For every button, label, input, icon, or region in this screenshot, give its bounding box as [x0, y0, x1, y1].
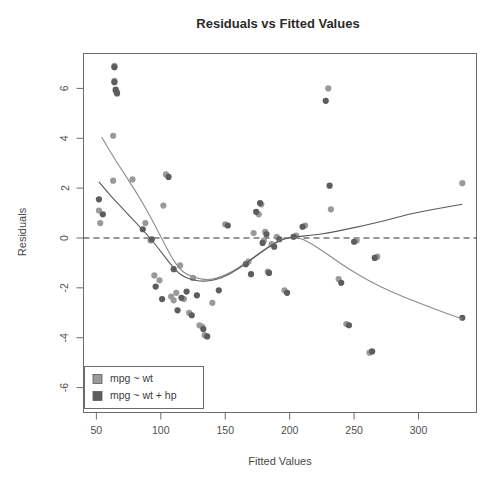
- data-point: [327, 183, 333, 189]
- data-point: [142, 220, 148, 226]
- y-axis-label: Residuals: [16, 207, 28, 256]
- x-tick-label: 150: [216, 424, 234, 436]
- smoother-curves-layer: [99, 137, 462, 319]
- x-axis-label: Fitted Values: [248, 455, 312, 467]
- x-tick-label: 200: [281, 424, 299, 436]
- data-point: [110, 133, 116, 139]
- data-point: [194, 292, 200, 298]
- data-point: [346, 322, 352, 328]
- x-tick-label: 250: [345, 424, 363, 436]
- residual-plot-figure: Residuals vs Fitted Values 5010015020025…: [0, 0, 503, 489]
- y-axis-ticks: 6420-2-4-6: [59, 85, 84, 392]
- data-point: [328, 206, 334, 212]
- legend-swatch[interactable]: [93, 392, 102, 401]
- data-point: [351, 239, 357, 245]
- legend-label[interactable]: mpg ~ wt: [110, 372, 153, 384]
- data-point: [110, 178, 116, 184]
- data-point: [250, 230, 256, 236]
- y-tick-label: 6: [59, 85, 71, 91]
- data-point: [323, 98, 329, 104]
- data-point: [338, 280, 344, 286]
- data-point: [156, 277, 162, 283]
- data-point: [171, 297, 177, 303]
- data-point: [159, 296, 165, 302]
- y-tick-label: 4: [59, 135, 71, 141]
- data-point: [248, 271, 254, 277]
- scatter-points-layer: [96, 63, 466, 356]
- data-point: [173, 290, 179, 296]
- data-point: [97, 220, 103, 226]
- y-tick-label: 2: [59, 185, 71, 191]
- data-point: [129, 176, 135, 182]
- data-point: [369, 348, 375, 354]
- x-tick-label: 50: [91, 424, 103, 436]
- data-point: [372, 255, 378, 261]
- series-points-mpg-wt-hp: [96, 64, 466, 354]
- y-tick-label: -2: [59, 283, 71, 292]
- data-point: [100, 211, 106, 217]
- legend-swatch[interactable]: [93, 375, 102, 384]
- data-point: [151, 272, 157, 278]
- data-point: [189, 312, 195, 318]
- data-point: [160, 202, 166, 208]
- data-point: [257, 200, 263, 206]
- data-point: [174, 307, 180, 313]
- data-point: [96, 196, 102, 202]
- plot-panel-border: [84, 54, 477, 413]
- data-point: [459, 180, 465, 186]
- y-tick-label: -4: [59, 333, 71, 342]
- data-point: [204, 333, 210, 339]
- data-point: [165, 174, 171, 180]
- data-point: [209, 300, 215, 306]
- x-axis-ticks: 50100150200250300: [91, 413, 428, 436]
- data-point: [260, 240, 266, 246]
- chart-canvas: Residuals vs Fitted Values 5010015020025…: [0, 0, 503, 489]
- data-point: [153, 284, 159, 290]
- y-tick-label: -6: [59, 383, 71, 392]
- data-point: [225, 222, 231, 228]
- series-points-mpg-wt: [96, 63, 466, 356]
- data-point: [177, 262, 183, 268]
- data-point: [263, 231, 269, 237]
- data-point: [216, 287, 222, 293]
- data-point: [200, 326, 206, 332]
- data-point: [299, 224, 305, 230]
- data-point: [284, 290, 290, 296]
- x-tick-label: 100: [152, 424, 170, 436]
- data-point: [325, 85, 331, 91]
- legend-label[interactable]: mpg ~ wt + hp: [110, 389, 177, 401]
- data-point: [253, 209, 259, 215]
- data-point: [183, 288, 189, 294]
- y-tick-label: 0: [59, 235, 71, 241]
- x-tick-label: 300: [410, 424, 428, 436]
- data-point: [266, 270, 272, 276]
- chart-legend[interactable]: mpg ~ wtmpg ~ wt + hp: [85, 367, 204, 409]
- data-point: [171, 266, 177, 272]
- chart-title: Residuals vs Fitted Values: [196, 16, 359, 31]
- data-point: [178, 295, 184, 301]
- smoother-curve: [99, 182, 462, 281]
- data-point: [111, 79, 117, 85]
- data-point: [114, 90, 120, 96]
- data-point: [111, 64, 117, 70]
